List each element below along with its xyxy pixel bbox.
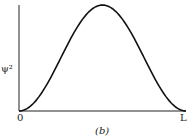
figure-caption: (b) [95, 126, 109, 136]
x-tick-end: L [180, 113, 187, 123]
psi-squared-curve [19, 5, 186, 111]
chart-plot [0, 0, 189, 139]
x-tick-origin: 0 [17, 113, 23, 123]
y-axis-label: ψ² [1, 64, 13, 74]
